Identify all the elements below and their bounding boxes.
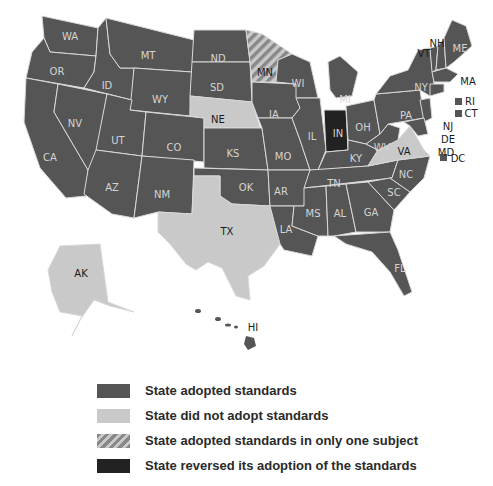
label-ny: NY bbox=[414, 82, 428, 93]
label-de: DE bbox=[441, 134, 455, 145]
label-ak: AK bbox=[74, 268, 88, 279]
label-az: AZ bbox=[105, 182, 119, 193]
label-nh: NH bbox=[430, 38, 445, 49]
label-tx: TX bbox=[220, 226, 234, 237]
label-wa: WA bbox=[62, 31, 78, 42]
label-fl: FL bbox=[394, 263, 406, 274]
legend-label: State reversed its adoption of the stand… bbox=[145, 458, 417, 473]
legend-item-reversed: State reversed its adoption of the stand… bbox=[97, 453, 418, 478]
label-al: AL bbox=[334, 208, 347, 219]
label-ca: CA bbox=[43, 152, 57, 163]
label-hi: HI bbox=[248, 322, 258, 333]
state-mt bbox=[106, 18, 194, 72]
label-ks: KS bbox=[227, 148, 240, 159]
label-ma: MA bbox=[460, 76, 476, 87]
legend-label: State adopted standards bbox=[145, 383, 297, 398]
not-adopted-swatch-icon bbox=[97, 409, 130, 423]
state-nm bbox=[134, 156, 194, 218]
label-ne: NE bbox=[211, 114, 225, 125]
label-mn: MN bbox=[257, 67, 273, 78]
label-nd: ND bbox=[210, 53, 225, 64]
label-ar: AR bbox=[274, 186, 288, 197]
label-ga: GA bbox=[364, 207, 379, 218]
legend-box-ri bbox=[455, 98, 462, 105]
reversed-swatch-icon bbox=[97, 459, 130, 473]
label-id: ID bbox=[102, 80, 113, 91]
legend-box-ct bbox=[455, 110, 462, 117]
label-ms: MS bbox=[306, 208, 321, 219]
label-oh: OH bbox=[355, 122, 370, 133]
label-in: IN bbox=[333, 128, 343, 139]
label-ky: KY bbox=[350, 153, 363, 164]
legend-label: State did not adopt standards bbox=[145, 408, 328, 423]
label-sd: SD bbox=[210, 82, 224, 93]
label-mt: MT bbox=[141, 50, 157, 61]
label-wy: WY bbox=[152, 94, 169, 105]
state-ak bbox=[48, 244, 134, 336]
label-me: ME bbox=[453, 43, 468, 54]
label-nj: NJ bbox=[443, 121, 453, 132]
label-mo: MO bbox=[275, 151, 292, 162]
map-legend: State adopted standards State did not ad… bbox=[97, 378, 418, 478]
label-tn: TN bbox=[326, 178, 341, 189]
label-ri: RI bbox=[465, 96, 475, 107]
label-dc: DC bbox=[451, 153, 466, 164]
label-or: OR bbox=[50, 66, 65, 77]
state-co bbox=[142, 112, 204, 162]
label-nm: NM bbox=[154, 189, 170, 200]
label-ct: CT bbox=[464, 108, 478, 119]
label-sc: SC bbox=[387, 187, 400, 198]
adopted-swatch-icon bbox=[97, 384, 130, 398]
state-mi bbox=[328, 56, 358, 98]
legend-item-not-adopted: State did not adopt standards bbox=[97, 403, 418, 428]
label-il: IL bbox=[308, 131, 317, 142]
state-wy bbox=[130, 68, 192, 116]
label-va: VA bbox=[397, 146, 410, 157]
label-wv: WV bbox=[374, 142, 391, 153]
label-nv: NV bbox=[68, 118, 82, 129]
legend-item-adopted: State adopted standards bbox=[97, 378, 418, 403]
label-nc: NC bbox=[399, 169, 413, 180]
label-la: LA bbox=[280, 224, 293, 235]
label-ia: IA bbox=[269, 109, 279, 120]
legend-label: State adopted standards in only one subj… bbox=[145, 433, 418, 448]
one-subject-swatch-icon bbox=[97, 434, 130, 448]
label-mi: MI bbox=[339, 94, 351, 105]
state-ct-land bbox=[430, 84, 444, 96]
label-ok: OK bbox=[239, 182, 254, 193]
us-map: WA OR CA ID NV MT WY UT AZ CO NM ND SD N… bbox=[0, 0, 493, 370]
label-co: CO bbox=[167, 142, 182, 153]
label-wi: WI bbox=[292, 78, 305, 89]
legend-item-one-subject: State adopted standards in only one subj… bbox=[97, 428, 418, 453]
label-ut: UT bbox=[111, 135, 125, 146]
label-vt: VT bbox=[418, 48, 432, 59]
label-pa: PA bbox=[400, 110, 412, 121]
